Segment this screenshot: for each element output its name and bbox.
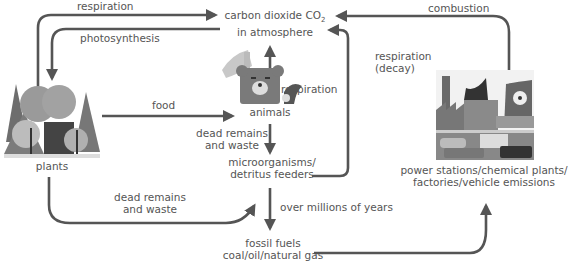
food-label: food: [152, 99, 175, 111]
trees-icon: [4, 82, 100, 160]
factory-icon: [436, 70, 534, 160]
industry-label: power stations/chemical plants/ factorie…: [400, 164, 568, 188]
plant-respiration-label: respiration: [77, 0, 133, 12]
arrow-fuel-use: [314, 206, 486, 253]
plant-dead-remains-line2: and waste: [123, 203, 177, 215]
fossil-fuels-line1: fossil fuels: [245, 237, 300, 249]
atmosphere-label: carbon dioxide CO2 in atmosphere: [220, 9, 330, 38]
photosynthesis-label: photosynthesis: [80, 32, 160, 44]
decay-line2: (decay): [375, 62, 415, 74]
plant-dead-remains-line1: dead remains: [114, 191, 186, 203]
animals-label: animals: [238, 106, 302, 118]
arrow-plants-respiration: [38, 15, 215, 92]
co2-subscript: 2: [321, 16, 325, 24]
animal-dead-remains-line2: and waste: [205, 139, 259, 151]
atmosphere-line2: in atmosphere: [237, 26, 313, 38]
industry-line1: power stations/chemical plants/: [400, 164, 567, 176]
decay-label: respiration (decay): [375, 50, 431, 74]
microorganisms-line2: detritus feeders: [230, 168, 314, 180]
arrow-decay: [312, 30, 348, 176]
fossil-fuels-line2: coal/oil/natural gas: [223, 249, 323, 261]
animal-dead-remains-line1: dead remains: [196, 127, 268, 139]
animal-respiration-label: respiration: [281, 83, 337, 95]
microorganisms-label: microorganisms/ detritus feeders: [222, 156, 322, 180]
animal-dead-remains-label: dead remains and waste: [196, 127, 268, 151]
fossilization-label: over millions of years: [280, 201, 393, 213]
decay-line1: respiration: [375, 50, 431, 62]
combustion-label: combustion: [428, 2, 489, 14]
plant-dead-remains-label: dead remains and waste: [110, 191, 190, 215]
microorganisms-line1: microorganisms/: [228, 156, 315, 168]
animals-icon: [218, 44, 304, 106]
atmosphere-line1: carbon dioxide CO: [225, 9, 321, 21]
plants-label: plants: [22, 160, 82, 172]
fossil-fuels-label: fossil fuels coal/oil/natural gas: [218, 237, 328, 261]
industry-line2: factories/vehicle emissions: [413, 176, 555, 188]
